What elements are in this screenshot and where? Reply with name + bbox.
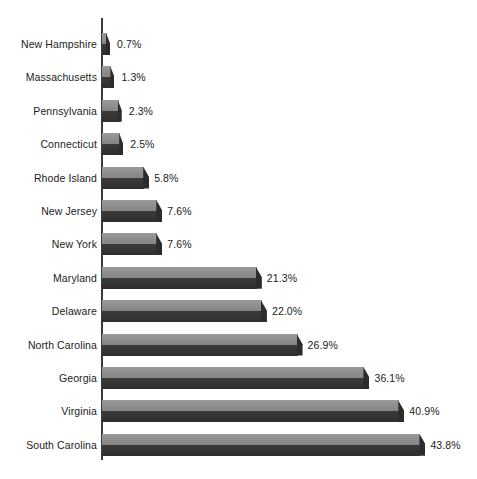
category-label: New Hampshire [21, 38, 97, 50]
bar-end-cap [143, 167, 149, 189]
value-label: 22.0% [272, 305, 302, 317]
bar-top-face [102, 434, 420, 445]
category-label: South Carolina [26, 439, 97, 451]
bar-row: Pennsylvania2.3% [0, 96, 477, 126]
bar-end-cap [110, 66, 114, 88]
bar-end-cap [118, 100, 122, 122]
bar-end-cap [256, 267, 262, 289]
bar-row: North Carolina26.9% [0, 330, 477, 360]
bar-end-cap [419, 434, 425, 456]
bar-row: Delaware22.0% [0, 296, 477, 326]
bar-top-face [102, 267, 257, 278]
bar-top-face [102, 200, 157, 211]
bar-end-cap [119, 133, 123, 155]
value-label: 7.6% [167, 205, 191, 217]
bar-top-face [102, 367, 364, 378]
bar-top-face [102, 334, 298, 345]
bar-front-face [102, 411, 399, 422]
bar [102, 400, 399, 422]
category-label: Massachusetts [26, 71, 97, 83]
value-label: 21.3% [267, 272, 297, 284]
bar-end-cap [363, 367, 369, 389]
category-label: New York [52, 238, 97, 250]
bar-end-cap [156, 233, 162, 255]
bar [102, 334, 298, 356]
value-label: 2.3% [129, 105, 153, 117]
bar-row: South Carolina43.8% [0, 430, 477, 460]
value-label: 36.1% [374, 372, 404, 384]
category-label: Pennsylvania [33, 105, 97, 117]
value-label: 1.3% [121, 71, 145, 83]
bar-front-face [102, 345, 298, 356]
bar-top-face [102, 167, 144, 178]
bar-front-face [102, 278, 257, 289]
bar-top-face [102, 133, 120, 144]
bar-top-face [102, 66, 111, 77]
bar-row: Massachusetts1.3% [0, 62, 477, 92]
value-label: 40.9% [409, 405, 439, 417]
bar [102, 300, 262, 322]
bar-front-face [102, 378, 364, 389]
bar-row: Virginia40.9% [0, 396, 477, 426]
bar [102, 200, 157, 222]
bar-front-face [102, 144, 120, 155]
bar-front-face [102, 77, 111, 88]
bar-end-cap [156, 200, 162, 222]
bar-end-cap [261, 300, 267, 322]
bar [102, 267, 257, 289]
bar [102, 367, 364, 389]
value-label: 0.7% [117, 38, 141, 50]
bar-front-face [102, 445, 420, 456]
value-label: 5.8% [154, 172, 178, 184]
bar-front-face [102, 111, 119, 122]
category-label: New Jersey [41, 205, 97, 217]
bar [102, 434, 420, 456]
value-label: 26.9% [308, 339, 338, 351]
bar-top-face [102, 400, 399, 411]
bar-front-face [102, 178, 144, 189]
bar-end-cap [398, 400, 404, 422]
category-label: Georgia [59, 372, 97, 384]
category-label: Rhode Island [34, 172, 97, 184]
category-label: North Carolina [28, 339, 97, 351]
bar-front-face [102, 211, 157, 222]
category-label: Delaware [52, 305, 97, 317]
category-label: Virginia [61, 405, 97, 417]
bar-row: Georgia36.1% [0, 363, 477, 393]
bar-top-face [102, 300, 262, 311]
bar-row: Maryland21.3% [0, 263, 477, 293]
bar-end-cap [106, 33, 110, 55]
bar-row: New Hampshire0.7% [0, 29, 477, 59]
bar-chart: New Hampshire0.7%Massachusetts1.3%Pennsy… [0, 0, 477, 479]
bar [102, 167, 144, 189]
bar [102, 33, 107, 55]
bar [102, 66, 111, 88]
bar [102, 233, 157, 255]
bar-front-face [102, 244, 157, 255]
category-label: Connecticut [40, 138, 97, 150]
bar [102, 133, 120, 155]
bar-row: Connecticut2.5% [0, 129, 477, 159]
bar-row: Rhode Island5.8% [0, 163, 477, 193]
plot-area: New Hampshire0.7%Massachusetts1.3%Pennsy… [0, 0, 477, 479]
bar-top-face [102, 100, 119, 111]
bar-row: New York7.6% [0, 229, 477, 259]
value-label: 43.8% [430, 439, 460, 451]
bar-end-cap [297, 334, 303, 356]
category-label: Maryland [53, 272, 97, 284]
bar-top-face [102, 233, 157, 244]
bar-row: New Jersey7.6% [0, 196, 477, 226]
bar [102, 100, 119, 122]
value-label: 7.6% [167, 238, 191, 250]
bar-front-face [102, 311, 262, 322]
value-label: 2.5% [130, 138, 154, 150]
